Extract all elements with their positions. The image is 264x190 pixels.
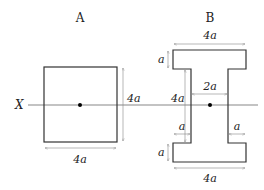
square-height-label: 4a (126, 92, 141, 105)
section-b-title: B (206, 11, 215, 25)
ibeam-web-height-label: 4a (170, 92, 185, 105)
ibeam-centroid-dot (208, 103, 212, 107)
ibeam-top-width-label: 4a (202, 29, 217, 42)
section-a-title: A (75, 11, 85, 25)
ibeam-bottom-width-label: 4a (202, 172, 217, 185)
ibeam-web-width-label: 2a (202, 80, 217, 93)
ibeam-bottom-flange-thickness-label: a (158, 146, 165, 159)
ibeam-top-flange-thickness-label: a (158, 53, 165, 66)
square-centroid-dot (78, 103, 82, 107)
section-b-ibeam: 4a a 4a 2a a a a 4a (158, 29, 246, 185)
square-width-label: 4a (72, 153, 87, 166)
ibeam-right-overhang-label: a (234, 120, 241, 133)
ibeam-left-overhang-label: a (179, 120, 186, 133)
x-axis-label: X (14, 98, 24, 112)
section-a-square: 4a 4a (44, 67, 141, 166)
cross-section-diagram: A B X 4a 4a 4a a 4a 2a a a (0, 0, 264, 190)
